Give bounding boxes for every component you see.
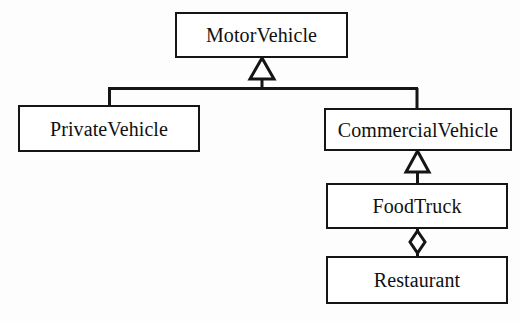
hollow-triangle-arrowhead-commercialvehicle [406,151,429,172]
hollow-triangle-arrowhead-motorvehicle [250,58,274,79]
class-node-restaurant[interactable]: Restaurant [326,256,508,304]
hollow-diamond-aggregation [410,231,425,253]
class-node-privatevehicle[interactable]: PrivateVehicle [18,105,200,152]
uml-class-diagram: MotorVehicle PrivateVehicle CommercialVe… [0,0,520,321]
class-name-label: MotorVehicle [206,25,317,45]
class-name-label: CommercialVehicle [338,120,499,140]
class-name-label: Restaurant [374,270,461,290]
generalization-tree-motorvehicle [108,58,418,109]
aggregation-foodtruck-restaurant [410,229,425,257]
class-node-motorvehicle[interactable]: MotorVehicle [175,12,348,58]
class-name-label: FoodTruck [372,196,461,216]
generalization-foodtruck-to-commercialvehicle [406,151,429,184]
class-node-foodtruck[interactable]: FoodTruck [326,183,508,229]
class-name-label: PrivateVehicle [50,119,168,139]
class-node-commercialvehicle[interactable]: CommercialVehicle [324,108,512,151]
